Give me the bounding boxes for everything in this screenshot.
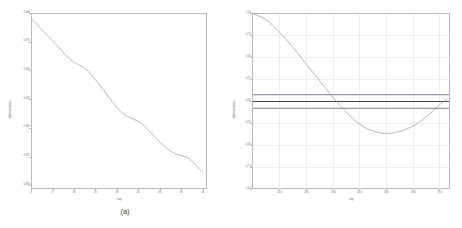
acf-curve-a [0,0,231,228]
panel-b: 1.00 0.75 0.50 0.25 0.00 -0.25 -0.50 -0.… [231,0,462,228]
panel-caption-a: (a) [105,207,145,216]
acf-curve-b [231,0,462,228]
panel-a: 1.000 0.975 0.950 0.925 0.900 0.875 0.85… [0,0,231,228]
acf-figure: 1.000 0.975 0.950 0.925 0.900 0.875 0.85… [0,0,462,228]
